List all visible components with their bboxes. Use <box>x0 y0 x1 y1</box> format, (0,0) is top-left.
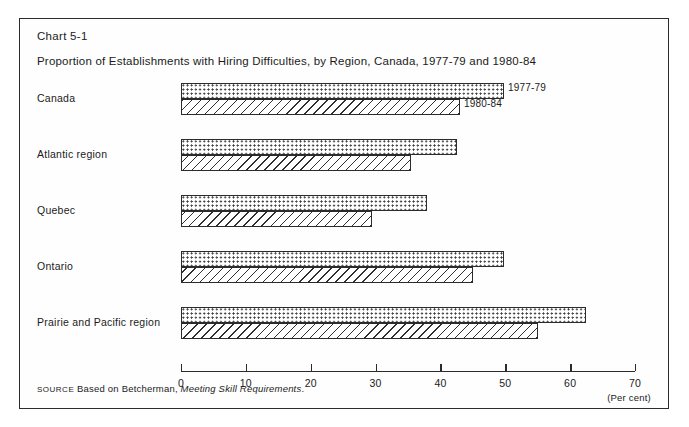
source-note: SOURCE Based on Betcherman, Meeting Skil… <box>37 383 304 394</box>
axis-unit-label: (Per cent) <box>607 392 651 403</box>
chart-title: Proportion of Establishments with Hiring… <box>37 55 536 67</box>
axis-tick <box>440 364 441 371</box>
category-label: Canada <box>20 92 170 104</box>
bar-series-b <box>181 155 411 171</box>
bar-series-b <box>181 99 460 115</box>
bar-group <box>181 137 651 177</box>
axis-tick <box>181 364 182 371</box>
axis-tick <box>246 364 247 371</box>
axis-line <box>181 371 635 372</box>
bar-group: 1977-791980-84 <box>181 81 651 121</box>
category-label: Atlantic region <box>20 148 170 160</box>
legend-label-series-a: 1977-79 <box>508 82 546 93</box>
axis-tick-label: 30 <box>370 377 382 389</box>
axis-tick-label: 70 <box>629 377 641 389</box>
source-text: Based on Betcherman, <box>77 383 178 394</box>
category-label: Ontario <box>20 260 170 272</box>
category-group: Quebec <box>20 193 670 233</box>
category-label: Quebec <box>20 204 170 216</box>
bar-series-a <box>181 139 457 155</box>
bar-series-a <box>181 251 504 267</box>
source-label: SOURCE <box>37 385 74 394</box>
category-group: Canada1977-791980-84 <box>20 81 670 121</box>
axis-tick-label: 40 <box>434 377 446 389</box>
bar-series-a <box>181 307 586 323</box>
bar-group <box>181 305 651 345</box>
category-label: Prairie and Pacific region <box>20 316 170 328</box>
bar-group <box>181 249 651 289</box>
plot-area: Canada1977-791980-84Atlantic regionQuebe… <box>20 81 670 361</box>
axis-tick <box>635 364 636 371</box>
source-suffix: . <box>301 383 304 394</box>
bar-series-b <box>181 267 473 283</box>
category-group: Atlantic region <box>20 137 670 177</box>
category-group: Prairie and Pacific region <box>20 305 670 345</box>
bar-series-a <box>181 83 504 99</box>
bar-series-a <box>181 195 427 211</box>
axis-tick-label: 20 <box>305 377 317 389</box>
axis-tick-label: 60 <box>564 377 576 389</box>
category-group: Ontario <box>20 249 670 289</box>
axis-tick-label: 50 <box>499 377 511 389</box>
source-publication-title: Meeting Skill Requirements <box>181 383 302 394</box>
chart-number: Chart 5-1 <box>37 30 88 42</box>
chart-frame: Chart 5-1 Proportion of Establishments w… <box>19 18 669 409</box>
bar-series-b <box>181 211 372 227</box>
bar-series-b <box>181 323 538 339</box>
axis-tick <box>570 364 571 371</box>
axis-tick <box>376 364 377 371</box>
axis-tick <box>311 364 312 371</box>
legend-label-series-b: 1980-84 <box>464 98 502 109</box>
bar-group <box>181 193 651 233</box>
axis-tick <box>505 364 506 371</box>
